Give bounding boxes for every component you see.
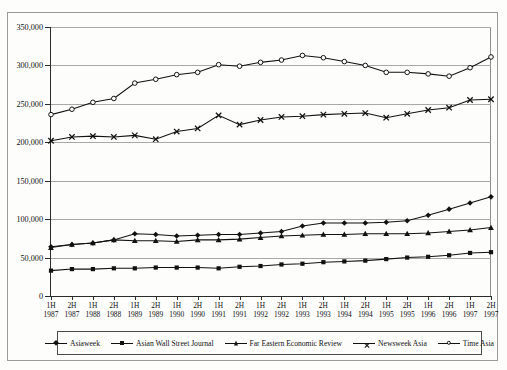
- data-point-square: [342, 259, 346, 263]
- x-axis-tick: [428, 296, 429, 300]
- data-point-square: [133, 266, 137, 270]
- legend-item-asiaweek[interactable]: Asiaweek: [45, 339, 100, 348]
- x-label-half: 1H: [88, 301, 97, 310]
- data-point-diamond: [383, 219, 389, 225]
- legend-item-time-asia[interactable]: Time Asia: [438, 339, 494, 348]
- data-point-square: [70, 267, 74, 271]
- x-axis-tick: [261, 296, 262, 300]
- data-point-diamond: [321, 220, 327, 226]
- x-label-year: 1990: [190, 310, 205, 319]
- legend-item-newsweek-asia[interactable]: Newsweek Asia: [353, 339, 427, 348]
- legend-swatch-x-icon: [353, 340, 375, 347]
- data-point-circle: [133, 81, 138, 86]
- data-point-square: [154, 265, 158, 269]
- x-axis-tick: [323, 296, 324, 300]
- x-axis-label: 2H1997: [484, 301, 499, 319]
- data-point-square: [217, 266, 221, 270]
- data-point-diamond: [132, 231, 138, 237]
- data-point-circle: [405, 70, 410, 75]
- data-point-square: [426, 255, 430, 259]
- series-layer: [51, 27, 491, 296]
- data-point-circle: [447, 74, 452, 79]
- x-label-year: 1997: [484, 310, 499, 319]
- x-axis-label: 2H1995: [400, 301, 415, 319]
- x-label-half: 1H: [424, 301, 433, 310]
- legend-swatch-diamond-icon: [45, 340, 67, 347]
- series-1: [49, 250, 493, 273]
- legend-marker-circle-icon: [447, 341, 451, 345]
- x-label-half: 1H: [298, 301, 307, 310]
- y-axis-label: 350,000: [16, 23, 43, 32]
- data-point-circle: [112, 96, 117, 101]
- data-point-square: [175, 265, 179, 269]
- legend-swatch-square-icon: [111, 340, 133, 347]
- data-point-circle: [342, 59, 347, 64]
- x-label-half: 2H: [109, 301, 118, 310]
- x-axis-tick: [114, 296, 115, 300]
- data-point-circle: [426, 72, 431, 77]
- data-point-circle: [153, 77, 158, 82]
- x-label-half: 2H: [67, 301, 76, 310]
- x-axis-tick: [156, 296, 157, 300]
- x-axis-label: 1H1994: [337, 301, 352, 319]
- x-axis-label: 2H1994: [358, 301, 373, 319]
- x-axis-label: 1H1987: [44, 301, 59, 319]
- x-axis-label: 1H1989: [127, 301, 142, 319]
- x-label-half: 2H: [277, 301, 286, 310]
- x-axis-tick: [365, 296, 366, 300]
- y-axis-label: 0: [39, 292, 43, 301]
- x-axis-tick: [302, 296, 303, 300]
- y-axis-label: 150,000: [16, 176, 43, 185]
- data-point-square: [405, 255, 409, 259]
- x-label-year: 1996: [421, 310, 436, 319]
- data-point-circle: [384, 70, 389, 75]
- x-label-year: 1996: [442, 310, 457, 319]
- data-point-square: [447, 253, 451, 257]
- x-label-year: 1988: [106, 310, 121, 319]
- x-axis-tick: [51, 296, 52, 300]
- legend-marker-square-icon: [120, 341, 124, 345]
- data-point-diamond: [174, 233, 180, 239]
- legend-label: Newsweek Asia: [378, 339, 427, 348]
- data-point-square: [49, 269, 53, 273]
- x-axis-tick: [198, 296, 199, 300]
- x-label-year: 1988: [86, 310, 101, 319]
- plot-area: 050,000100,000150,000200,000250,000300,0…: [50, 27, 491, 297]
- x-label-half: 1H: [340, 301, 349, 310]
- legend-item-asian-wall-street-journal[interactable]: Asian Wall Street Journal: [111, 339, 214, 348]
- x-axis-tick: [72, 296, 73, 300]
- x-axis-tick: [177, 296, 178, 300]
- x-label-half: 2H: [319, 301, 328, 310]
- x-label-year: 1997: [463, 310, 478, 319]
- data-point-square: [91, 267, 95, 271]
- x-axis-tick: [93, 296, 94, 300]
- x-label-half: 2H: [193, 301, 202, 310]
- data-point-x: [216, 113, 221, 118]
- data-point-square: [321, 260, 325, 264]
- x-axis-label: 2H1988: [106, 301, 121, 319]
- data-point-diamond: [467, 200, 473, 206]
- x-label-half: 1H: [214, 301, 223, 310]
- x-label-half: 1H: [130, 301, 139, 310]
- legend-marker-triangle-icon: [234, 341, 238, 346]
- x-axis-label: 2H1991: [232, 301, 247, 319]
- legend-label: Time Asia: [463, 339, 494, 348]
- x-label-half: 2H: [361, 301, 370, 310]
- chart-legend: AsiaweekAsian Wall Street JournalFar Eas…: [57, 331, 482, 355]
- data-point-diamond: [300, 223, 306, 229]
- x-label-half: 1H: [172, 301, 181, 310]
- data-point-diamond: [425, 213, 431, 219]
- x-label-year: 1989: [148, 310, 163, 319]
- x-label-half: 1H: [46, 301, 55, 310]
- x-axis-label: 2H1993: [316, 301, 331, 319]
- data-point-circle: [70, 107, 75, 112]
- x-axis-tick: [407, 296, 408, 300]
- data-point-circle: [279, 58, 284, 63]
- x-label-year: 1992: [274, 310, 289, 319]
- data-point-square: [363, 259, 367, 263]
- data-point-circle: [174, 72, 179, 77]
- x-label-year: 1991: [211, 310, 226, 319]
- series-3: [48, 97, 493, 144]
- legend-item-far-eastern-economic-review[interactable]: Far Eastern Economic Review: [225, 339, 343, 348]
- x-label-half: 1H: [466, 301, 475, 310]
